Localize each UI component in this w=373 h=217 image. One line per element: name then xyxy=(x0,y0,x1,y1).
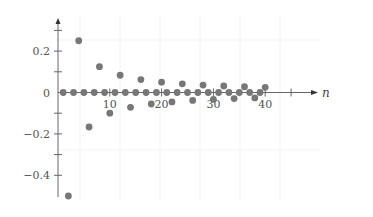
y-tick-label: −0.4 xyxy=(23,169,50,182)
data-point xyxy=(210,96,217,103)
scatter-plot: n0.20−0.2−0.410203040 xyxy=(0,0,373,217)
data-point xyxy=(241,83,248,90)
x-tick-label: 40 xyxy=(258,98,272,111)
data-point xyxy=(101,89,108,96)
data-point xyxy=(163,89,170,96)
data-point xyxy=(231,95,238,102)
data-point xyxy=(75,37,82,44)
x-axis-arrow-icon xyxy=(311,90,318,95)
data-point xyxy=(96,63,103,70)
data-point xyxy=(262,84,269,91)
data-point xyxy=(86,124,93,131)
data-point xyxy=(226,89,233,96)
data-point xyxy=(153,89,160,96)
axes: n0.20−0.2−0.410203040 xyxy=(23,18,329,197)
data-point xyxy=(148,101,155,108)
data-points xyxy=(60,37,269,199)
data-point xyxy=(215,89,222,96)
data-point xyxy=(117,72,124,79)
x-axis-label: n xyxy=(322,86,330,100)
data-point xyxy=(91,89,98,96)
y-tick-label: 0.2 xyxy=(33,45,51,58)
data-point xyxy=(200,82,207,89)
data-point xyxy=(220,83,227,90)
y-tick-label: −0.2 xyxy=(23,128,50,141)
data-point xyxy=(122,89,129,96)
data-point xyxy=(127,104,134,111)
data-point xyxy=(112,89,119,96)
data-point xyxy=(60,89,67,96)
data-point xyxy=(70,89,77,96)
data-point xyxy=(189,97,196,104)
data-point xyxy=(251,95,258,102)
data-point xyxy=(174,89,181,96)
data-point xyxy=(184,89,191,96)
y-axis-arrow-icon xyxy=(56,18,61,24)
y-tick-label: 0 xyxy=(43,87,50,100)
data-point xyxy=(65,193,72,200)
data-point xyxy=(257,89,264,96)
data-point xyxy=(158,79,165,86)
data-point xyxy=(194,89,201,96)
x-tick-label: 20 xyxy=(155,98,169,111)
data-point xyxy=(143,89,150,96)
data-point xyxy=(137,76,144,83)
x-tick-label: 10 xyxy=(103,98,117,111)
data-point xyxy=(205,89,212,96)
data-point xyxy=(246,89,253,96)
data-point xyxy=(236,89,243,96)
data-point xyxy=(179,80,186,87)
data-point xyxy=(132,89,139,96)
data-point xyxy=(169,99,176,106)
data-point xyxy=(106,110,113,117)
background-faint-grid xyxy=(58,15,320,200)
data-point xyxy=(81,89,88,96)
